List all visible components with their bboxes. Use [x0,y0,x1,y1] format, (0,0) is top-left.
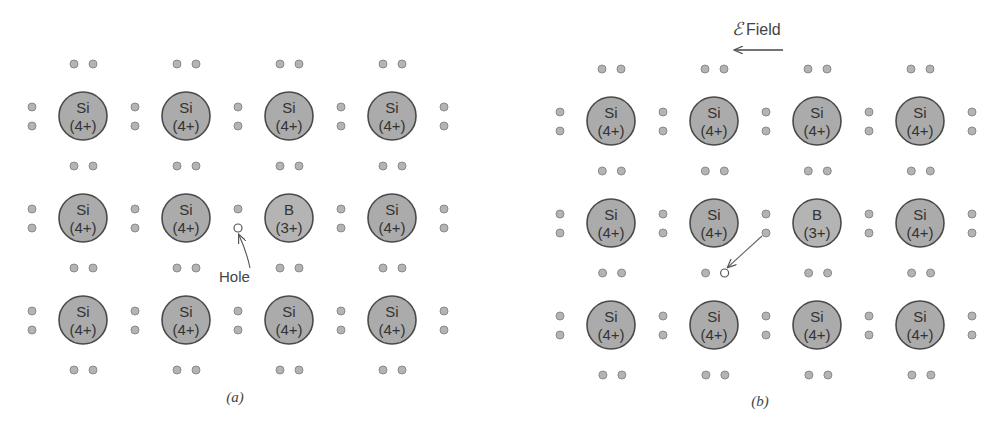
silicon-atom: Si(4+) [793,97,841,145]
atom-charge: (4+) [275,321,302,338]
atom-symbol: B [812,206,822,223]
atom-symbol: Si [707,104,720,121]
electric-field-indicator: ℰ Field [732,19,783,50]
electron-dot [192,366,200,374]
atom-charge: (4+) [906,224,933,241]
electron-dot [440,103,448,111]
atom-symbol: Si [604,104,617,121]
electron-dot [337,103,345,111]
electron-dot [234,326,242,334]
electron-dot [804,65,812,73]
atom-symbol: Si [76,201,89,218]
electron-dot [908,371,916,379]
electron-dot [720,65,728,73]
atom-symbol: Si [282,303,295,320]
electron-dot [440,307,448,315]
silicon-atom: Si(4+) [162,92,210,140]
lattice-panel-b: Si(4+)Si(4+)Si(4+)Si(4+)Si(4+)Si(4+)B(3+… [556,65,976,379]
electron-dot [702,371,710,379]
atom-symbol: Si [76,99,89,116]
silicon-atom: Si(4+) [59,296,107,344]
atom-charge: (4+) [275,117,302,134]
electron-motion-arrow-icon [728,236,762,267]
silicon-atom: Si(4+) [587,301,635,349]
silicon-atom: Si(4+) [690,97,738,145]
electron-dot [805,371,813,379]
electron-dot [556,312,564,320]
electron-dot [617,65,625,73]
atom-charge: (4+) [172,117,199,134]
electron-dot [70,60,78,68]
electron-dot [276,162,284,170]
silicon-atom: Si(4+) [690,199,738,247]
electron-dot [702,269,710,277]
field-symbol: ℰ [732,19,745,39]
silicon-atom: Si(4+) [896,97,944,145]
silicon-lattice-diagram: Si(4+)Si(4+)Si(4+)Si(4+)Si(4+)Si(4+)B(3+… [0,0,999,421]
electron-dot [295,162,303,170]
electron-dot [295,264,303,272]
electron-dot [968,108,976,116]
atom-charge: (4+) [597,326,624,343]
electron-dot [968,127,976,135]
electron-dot [907,65,915,73]
electron-dot [173,366,181,374]
electron-dot [926,65,934,73]
electron-dot [659,312,667,320]
atom-symbol: B [284,201,294,218]
electron-dot [295,366,303,374]
electron-dot [556,108,564,116]
silicon-atom: Si(4+) [368,92,416,140]
electron-dot [234,307,242,315]
atom-symbol: Si [604,206,617,223]
electron-dot [598,167,606,175]
atom-symbol: Si [385,303,398,320]
electron-dot [192,60,200,68]
electron-dot [337,205,345,213]
electron-dot [173,162,181,170]
electron-dot [131,307,139,315]
electron-dot [659,108,667,116]
electron-dot [659,331,667,339]
electron-dot [173,264,181,272]
atom-charge: (4+) [378,321,405,338]
electron-dot [28,326,36,334]
silicon-atom: Si(4+) [59,194,107,242]
electron-dot [131,103,139,111]
silicon-atom: Si(4+) [896,301,944,349]
atom-charge: (3+) [275,219,302,236]
electron-dot [234,122,242,130]
electron-dot [823,65,831,73]
electron-dot [598,65,606,73]
atom-symbol: Si [385,99,398,116]
silicon-atom: Si(4+) [587,97,635,145]
electron-dot [70,264,78,272]
electron-dot [192,162,200,170]
electron-dot [927,371,935,379]
electron-dot [398,162,406,170]
boron-atom: B(3+) [265,194,313,242]
atom-symbol: Si [707,206,720,223]
electron-dot [865,127,873,135]
electron-dot [28,307,36,315]
electron-dot [379,366,387,374]
electron-dot [89,264,97,272]
electron-dot [865,210,873,218]
atom-charge: (4+) [69,321,96,338]
electron-dot [70,366,78,374]
atom-symbol: Si [913,308,926,325]
electron-dot [556,127,564,135]
electron-dot [720,167,728,175]
electron-dot [379,264,387,272]
electron-dot [337,122,345,130]
electron-dot [659,127,667,135]
hole-label: Hole [219,268,250,285]
electron-dot [337,307,345,315]
silicon-atom: Si(4+) [265,296,313,344]
lattice-panel-a: Si(4+)Si(4+)Si(4+)Si(4+)Si(4+)Si(4+)B(3+… [28,60,448,374]
electron-dot [927,269,935,277]
atom-charge: (4+) [597,224,624,241]
electron-dot [131,326,139,334]
electron-dot [599,371,607,379]
silicon-atom: Si(4+) [368,194,416,242]
